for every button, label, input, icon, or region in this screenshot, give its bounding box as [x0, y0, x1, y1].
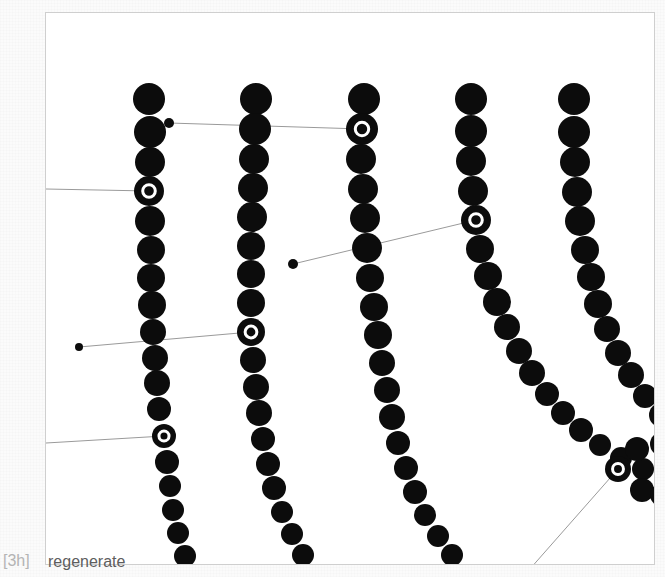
- strand-4-marker-4: [461, 205, 491, 235]
- strand-4-marker-7: [483, 288, 511, 316]
- strand-2-marker-2: [239, 144, 269, 174]
- strand-5-marker-8: [594, 316, 620, 342]
- strand-2-marker-6: [237, 260, 265, 288]
- strand-4-marker-13: [569, 418, 593, 442]
- strand-5-marker-6: [577, 263, 605, 291]
- strand-1-marker-13: [155, 450, 179, 474]
- strand-2-marker-9: [240, 347, 266, 373]
- strand-2-marker-10: [243, 374, 269, 400]
- strand-3-marker-17: [441, 544, 463, 565]
- strand-2-marker-11: [246, 400, 272, 426]
- terminal-dot-1: [75, 343, 83, 351]
- strand-1-marker-6: [137, 264, 165, 292]
- strand-5-marker-11: [633, 384, 655, 408]
- strand-5-marker-9: [605, 340, 631, 366]
- strand-6-partial-marker-0: [625, 437, 649, 461]
- strand-1-marker-2: [135, 147, 165, 177]
- strand-1-marker-16: [167, 522, 189, 544]
- strand-6-partial-marker-1: [605, 456, 631, 482]
- strand-1-marker-8: [140, 319, 166, 345]
- strand-3-marker-13: [394, 456, 418, 480]
- strand-1-marker-15: [162, 499, 184, 521]
- strand-5-marker-7: [584, 290, 612, 318]
- strand-2-marker-17: [292, 544, 314, 565]
- strand-2-marker-5: [237, 232, 265, 260]
- strand-2-marker-7: [237, 289, 265, 317]
- strand-5-marker-2: [560, 147, 590, 177]
- terminal-dot-2: [288, 259, 298, 269]
- strand-4-marker-1: [455, 115, 487, 147]
- strand-3-marker-0: [348, 83, 380, 115]
- strand-4-marker-3: [458, 176, 488, 206]
- strand-3-marker-14: [403, 480, 427, 504]
- strand-3-marker-1: [346, 113, 378, 145]
- strand-2-marker-0: [240, 83, 272, 115]
- terminal-dot-0: [164, 118, 174, 128]
- strand-4-marker-5: [466, 235, 494, 263]
- strand-5-marker-3: [562, 177, 592, 207]
- strand-4-marker-14: [589, 434, 611, 456]
- strand-2-marker-14: [262, 476, 286, 500]
- strand-3-marker-8: [364, 321, 392, 349]
- strand-2-marker-15: [271, 501, 293, 523]
- strand-3-marker-4: [350, 203, 380, 233]
- strand-1-marker-4: [135, 206, 165, 236]
- strand-1-marker-3: [134, 176, 164, 206]
- strand-3-marker-7: [360, 293, 388, 321]
- strand-1-marker-1: [134, 116, 166, 148]
- marker-dots-layer: [133, 83, 655, 565]
- strand-1-marker-0: [133, 83, 165, 115]
- strand-3-marker-10: [374, 377, 400, 403]
- strand-1-marker-14: [159, 475, 181, 497]
- strand-3-marker-11: [379, 404, 405, 430]
- strand-1-marker-5: [137, 236, 165, 264]
- strand-2-marker-4: [237, 202, 267, 232]
- connector-edge-to-strand1-lower: [46, 436, 164, 443]
- strand-5-marker-5: [571, 236, 599, 264]
- strand-1-marker-17: [174, 545, 196, 565]
- strand-3-marker-16: [427, 525, 449, 547]
- strand-4-marker-10: [519, 360, 545, 386]
- strand-4-marker-16: [632, 458, 654, 480]
- strand-2-marker-13: [256, 452, 280, 476]
- strand-5-marker-10: [618, 362, 644, 388]
- scatter-plot-svg: [46, 13, 655, 565]
- connector-edge-to-strand1-upper: [46, 189, 149, 191]
- strand-1-marker-9: [142, 345, 168, 371]
- strand-1-marker-10: [144, 370, 170, 396]
- connector-lines-layer: [46, 123, 618, 565]
- strand-2-marker-16: [281, 523, 303, 545]
- app-root: [3h] regenerate: [0, 0, 665, 577]
- strand-6-partial-marker-2: [630, 478, 654, 502]
- strand-3-marker-12: [386, 431, 410, 455]
- strand-4-marker-11: [535, 382, 559, 406]
- strand-3-marker-2: [346, 144, 376, 174]
- strand-2-marker-12: [251, 427, 275, 451]
- strand-4-marker-9: [506, 338, 532, 364]
- strand-2-marker-8: [237, 318, 265, 346]
- strand-3-marker-6: [356, 264, 384, 292]
- strand-4-marker-8: [494, 314, 520, 340]
- strand-1-marker-7: [138, 291, 166, 319]
- strand-2-marker-1: [239, 113, 271, 145]
- strand-4-marker-12: [551, 401, 575, 425]
- strand-3-marker-9: [369, 350, 395, 376]
- strand-4-marker-0: [455, 83, 487, 115]
- strand-1-marker-11: [147, 397, 171, 421]
- strand-2-marker-3: [238, 173, 268, 203]
- connector-strand6-to-bottom: [522, 469, 618, 565]
- strand-5-marker-1: [558, 116, 590, 148]
- strand-1-marker-12: [152, 424, 176, 448]
- strand-6-partial-marker-3: [650, 432, 655, 456]
- strand-4-marker-6: [474, 262, 502, 290]
- strand-4-marker-2: [456, 146, 486, 176]
- strand-3-marker-5: [352, 233, 382, 263]
- strand-3-marker-3: [348, 174, 378, 204]
- strand-5-marker-4: [565, 206, 595, 236]
- plot-canvas[interactable]: [45, 12, 655, 565]
- connector-smalldot-to-strand4: [293, 220, 476, 264]
- strand-5-marker-0: [558, 83, 590, 115]
- strand-3-marker-15: [414, 504, 436, 526]
